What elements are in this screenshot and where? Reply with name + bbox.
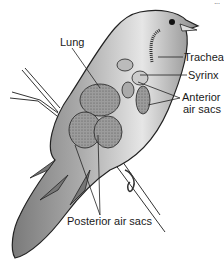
label-trachea: Trachea bbox=[184, 51, 224, 63]
label-syrinx: Syrinx bbox=[188, 69, 219, 81]
branch-twigs bbox=[10, 68, 60, 116]
bird-eye bbox=[169, 19, 175, 25]
corner-page-mark: ... bbox=[214, 0, 220, 5]
label-lung: Lung bbox=[60, 36, 84, 48]
label-posterior-air-sacs: Posterior air sacs bbox=[67, 215, 152, 227]
label-anterior-air-sacs-line1: Anterior bbox=[182, 91, 221, 103]
bird-foot bbox=[125, 170, 134, 191]
label-anterior-air-sacs-line2: air sacs bbox=[183, 103, 221, 115]
